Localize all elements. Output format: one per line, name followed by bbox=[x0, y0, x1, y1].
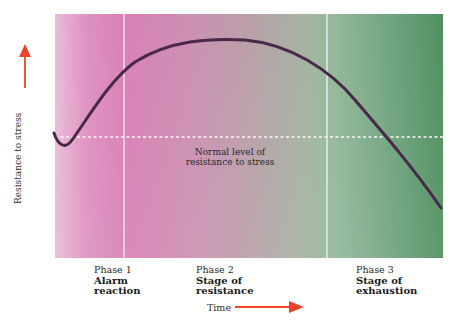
phase-1-label: Phase 1 Alarm reaction bbox=[94, 265, 141, 297]
normal-level-label: Normal level of resistance to stress bbox=[160, 147, 300, 167]
normal-level-label-line-2: resistance to stress bbox=[160, 157, 300, 167]
phase-2-label: Phase 2 Stage of resistance bbox=[196, 265, 254, 297]
phase-2-number: Phase 2 bbox=[196, 265, 254, 276]
x-axis-arrow-icon bbox=[235, 301, 304, 313]
phase-3-name-line-2: exhaustion bbox=[356, 286, 417, 297]
normal-level-label-line-1: Normal level of bbox=[160, 147, 300, 157]
phase-3-number: Phase 3 bbox=[356, 265, 417, 276]
phase-1-number: Phase 1 bbox=[94, 265, 141, 276]
phase-2-name-line-2: resistance bbox=[196, 286, 254, 297]
y-axis-label: Resistance to stress bbox=[13, 113, 23, 204]
y-axis-arrow-icon bbox=[19, 44, 31, 88]
phase-3-label: Phase 3 Stage of exhaustion bbox=[356, 265, 417, 297]
x-axis-label: Time bbox=[207, 302, 231, 313]
phase-1-name-line-2: reaction bbox=[94, 286, 141, 297]
